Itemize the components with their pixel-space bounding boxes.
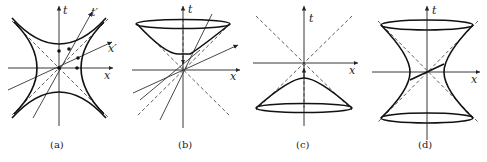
t-label: t <box>188 3 193 16</box>
boosted-x-axis <box>133 45 238 93</box>
panel-a: t t′ x′ x (a) <box>8 4 117 150</box>
x-label: x <box>349 64 356 77</box>
hyperboloid-right <box>444 25 473 118</box>
t-label: t <box>63 4 68 17</box>
boosted-line <box>140 50 200 100</box>
event-point <box>67 47 71 51</box>
caption-d: (d) <box>418 139 432 150</box>
event-point <box>75 66 79 70</box>
event-point <box>76 56 80 60</box>
x-label: x <box>230 70 237 83</box>
boosted-t-axis <box>160 14 212 120</box>
t-label: t <box>309 12 314 25</box>
t-label: t <box>432 4 437 17</box>
origin-point <box>57 66 61 70</box>
t-prime-label: t′ <box>91 6 98 19</box>
panel-b: t x (b) <box>132 3 240 150</box>
x-prime-label: x′ <box>108 42 117 55</box>
x-prime-axis <box>8 42 112 90</box>
caption-b: (b) <box>178 139 192 150</box>
caption-c: (c) <box>296 139 310 150</box>
caption-a: (a) <box>50 139 64 150</box>
panel-d: t x (d) <box>372 4 480 150</box>
x-label: x <box>104 69 111 82</box>
event-point <box>57 49 61 53</box>
figure: t t′ x′ x (a) t x (b) t x (c) <box>0 0 487 162</box>
x-label: x <box>471 73 478 86</box>
panel-c: t x (c) <box>253 6 358 150</box>
